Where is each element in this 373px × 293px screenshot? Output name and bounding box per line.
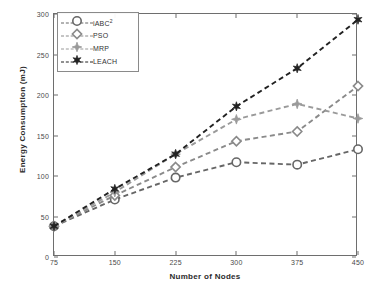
series-line (54, 86, 358, 226)
data-point (353, 81, 362, 90)
data-point (232, 158, 240, 166)
legend-label-text: PSO (93, 32, 108, 39)
y-tick-mark (54, 135, 58, 136)
series-pso (49, 81, 362, 230)
data-point (171, 173, 179, 181)
series-mrp (49, 99, 363, 231)
data-point (232, 137, 241, 146)
legend-label-text: MRP (93, 45, 109, 52)
series-iabc (50, 145, 362, 230)
data-point (293, 127, 302, 136)
x-tick-mark (175, 251, 176, 255)
legend-marker-star-icon (70, 53, 84, 71)
data-point (50, 222, 58, 231)
data-point (354, 145, 362, 153)
legend-label-text: LEACH (93, 58, 117, 65)
x-tick-label: 150 (109, 255, 121, 266)
x-tick-label: 375 (291, 255, 303, 266)
x-tick-label: 300 (230, 255, 242, 266)
x-tick-mark (236, 14, 237, 18)
legend-label: MRP (93, 45, 109, 52)
data-point (110, 191, 119, 200)
data-point (353, 114, 363, 124)
data-point (292, 99, 302, 109)
data-point (171, 162, 180, 171)
series-line (54, 104, 358, 226)
legend-label: PSO (93, 32, 108, 39)
y-tick-label: 100 (37, 173, 54, 180)
y-tick-label: 50 (41, 213, 54, 220)
y-tick-mark (54, 176, 58, 177)
x-tick-mark (54, 251, 55, 255)
x-tick-mark (54, 14, 55, 18)
legend-swatch (61, 56, 93, 67)
x-tick-mark (297, 14, 298, 18)
x-tick-mark (358, 14, 359, 18)
series-line (54, 149, 358, 226)
y-tick-mark (352, 135, 356, 136)
y-tick-label: 250 (37, 51, 54, 58)
x-axis-title: Number of Nodes (53, 272, 357, 281)
y-tick-mark (352, 176, 356, 177)
data-point (111, 195, 119, 203)
chart-legend: iABC2PSOMRPLEACH (57, 12, 139, 72)
data-point (111, 184, 119, 193)
data-point (232, 115, 242, 125)
x-tick-mark (236, 251, 237, 255)
y-tick-mark (352, 14, 356, 15)
x-tick-mark (114, 251, 115, 255)
y-tick-label: 300 (37, 11, 54, 18)
legend-label-text: iABC (93, 20, 110, 27)
data-point (49, 221, 59, 231)
legend-item-leach[interactable]: LEACH (61, 55, 136, 68)
y-axis-title: Energy Consumption (mJ) (18, 45, 27, 195)
data-point (49, 222, 58, 231)
x-tick-label: 75 (50, 255, 58, 266)
legend-label-superscript: 2 (110, 18, 113, 24)
y-tick-mark (352, 95, 356, 96)
y-tick-mark (352, 54, 356, 55)
y-tick-label: 150 (37, 132, 54, 139)
legend-label: iABC2 (93, 18, 113, 27)
data-point (293, 64, 301, 73)
data-point (171, 149, 181, 159)
x-tick-mark (297, 251, 298, 255)
y-tick-mark (352, 216, 356, 217)
legend-label: LEACH (93, 58, 117, 65)
y-tick-label: 200 (37, 92, 54, 99)
chart-figure: Energy Consumption (mJ) 0501001502002503… (0, 0, 373, 293)
data-point (110, 187, 120, 197)
x-tick-label: 225 (169, 255, 181, 266)
x-tick-label: 450 (352, 255, 364, 266)
x-tick-mark (358, 251, 359, 255)
data-point (50, 222, 58, 230)
data-point (232, 102, 240, 111)
x-tick-mark (175, 14, 176, 18)
data-point (172, 150, 180, 159)
y-tick-mark (54, 95, 58, 96)
y-tick-mark (54, 216, 58, 217)
data-point (293, 160, 301, 168)
